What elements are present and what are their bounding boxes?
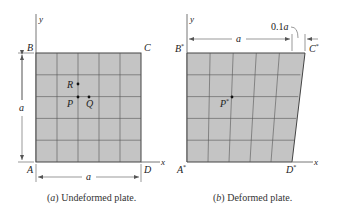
caption-b-text: Deformed plate. <box>225 192 292 203</box>
point-label-Q: Q <box>86 98 94 109</box>
corner-label-D: D <box>143 164 152 175</box>
caption-b: (b) Deformed plate. <box>213 192 292 204</box>
corner-label-C: C <box>144 42 151 53</box>
point-P <box>77 96 80 99</box>
panel-undeformed: y x B C A D a a R P Q (a) Undeformed pl <box>18 14 165 204</box>
y-axis-label-b: y <box>189 14 194 24</box>
caption-a-text: Undeformed plate. <box>59 192 136 203</box>
x-axis-label-b: x <box>313 157 318 167</box>
y-axis-label-a: y <box>38 14 43 24</box>
point-label-P: P <box>66 98 73 109</box>
corner-label-C-star: C* <box>309 43 319 54</box>
corner-label-B: B <box>27 42 33 53</box>
width-dim-label-a: a <box>86 171 91 182</box>
corner-label-A-star: A* <box>176 164 186 175</box>
corner-label-B-star: B* <box>175 43 184 54</box>
deformed-plate <box>187 53 305 162</box>
panel-deformed: y x B* C* A* D* a 0.1a P* (b) Deformed p… <box>175 14 319 204</box>
caption-a: (a) Undeformed plate. <box>47 192 136 204</box>
corner-label-D-star: D* <box>285 164 296 175</box>
figure: y x B C A D a a R P Q (a) Undeformed pl <box>0 0 339 209</box>
shift-dim-label: 0.1a <box>271 21 289 32</box>
point-label-R: R <box>66 79 73 90</box>
height-dim-label-a: a <box>19 102 24 113</box>
point-P-star <box>231 96 234 99</box>
corner-label-A: A <box>26 164 34 175</box>
width-dim-label-b: a <box>236 33 241 44</box>
x-axis-label-a: x <box>160 157 165 167</box>
point-R <box>77 83 80 86</box>
